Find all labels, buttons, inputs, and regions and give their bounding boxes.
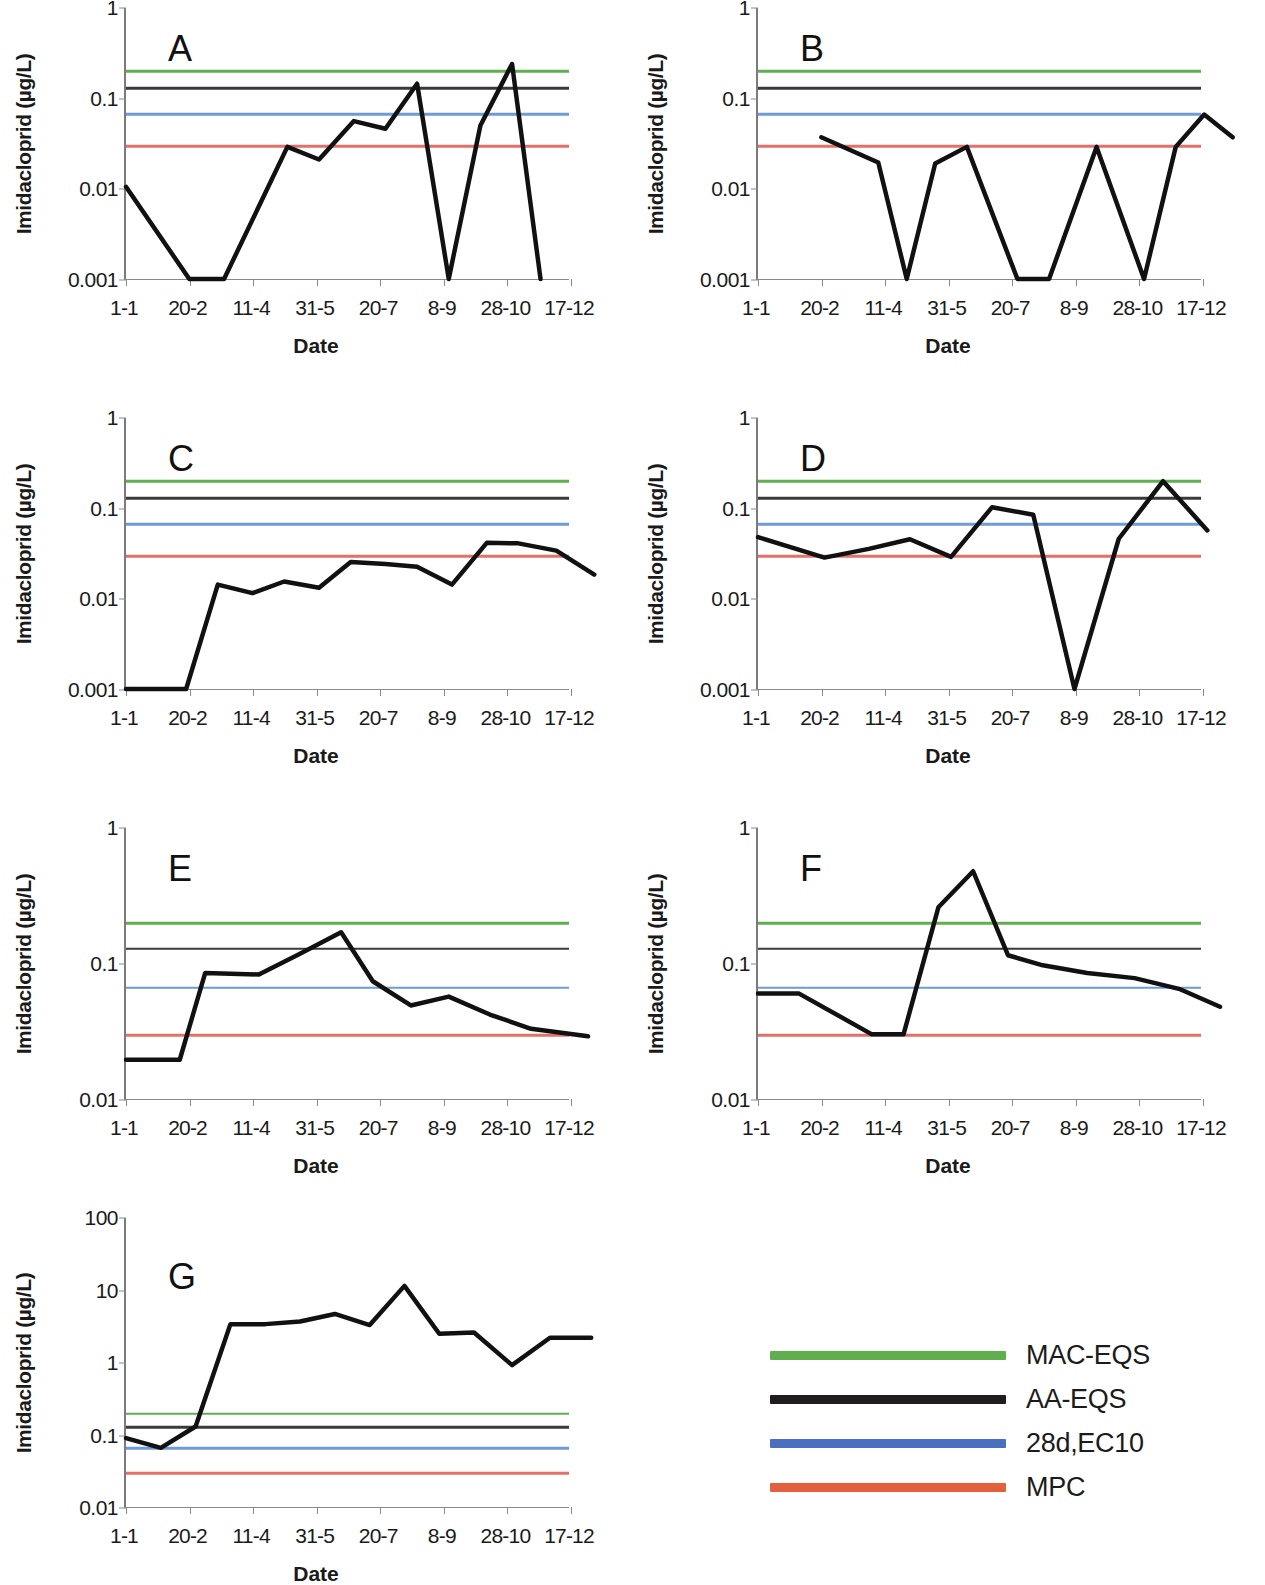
x-tick-label: 20-2 <box>168 1116 207 1140</box>
y-tick-label: 0.1 <box>90 1424 118 1448</box>
x-tick-label: 11-4 <box>233 706 270 730</box>
x-tick-label: 8-9 <box>428 706 456 730</box>
x-tick-mark <box>571 279 572 286</box>
x-tick-label: 1-1 <box>742 706 770 730</box>
x-tick-mark <box>1139 279 1140 286</box>
y-axis-ticks: 0.0010.010.11 <box>46 418 118 690</box>
y-tick-label: 1 <box>107 1351 118 1375</box>
x-axis-label: Date <box>632 1154 1264 1178</box>
x-tick-label: 20-7 <box>991 296 1030 320</box>
x-tick-label: 1-1 <box>110 706 138 730</box>
x-tick-mark <box>885 279 886 286</box>
y-axis-label: Imidacloprid (µg/L) <box>2 8 46 280</box>
legend-swatch-28d-ec10 <box>770 1439 1006 1448</box>
y-tick-mark <box>119 828 126 829</box>
y-tick-label: 1 <box>107 0 118 20</box>
x-tick-label: 20-7 <box>991 1116 1030 1140</box>
x-tick-mark <box>758 689 759 696</box>
x-tick-mark <box>253 689 254 696</box>
x-tick-label: 20-7 <box>359 1116 398 1140</box>
series-polyline <box>758 481 1207 689</box>
x-tick-mark <box>253 279 254 286</box>
x-tick-mark <box>1012 1099 1013 1106</box>
x-tick-mark <box>126 279 127 286</box>
y-tick-label: 0.1 <box>90 952 118 976</box>
x-tick-label: 28-10 <box>481 296 531 320</box>
x-tick-label: 17-12 <box>544 706 594 730</box>
x-tick-label: 31-5 <box>295 296 334 320</box>
chart-panel-b: Imidacloprid (µg/L)0.0010.010.11B1-120-2… <box>632 8 1264 390</box>
y-tick-label: 1 <box>739 406 750 430</box>
x-tick-mark <box>1012 279 1013 286</box>
y-axis-label: Imidacloprid (µg/L) <box>634 418 678 690</box>
x-tick-mark <box>1203 689 1204 696</box>
series-polyline <box>126 932 588 1059</box>
x-tick-label: 11-4 <box>233 1116 270 1140</box>
chart-panel-g: Imidacloprid (µg/L)0.010.1110100G1-120-2… <box>0 1218 632 1585</box>
legend-label-aa-eqs: AA-EQS <box>1026 1384 1126 1415</box>
y-tick-mark <box>751 964 758 965</box>
y-tick-mark <box>751 599 758 600</box>
series-polyline <box>126 1286 591 1448</box>
x-tick-label: 28-10 <box>481 1116 531 1140</box>
x-tick-mark <box>126 1099 127 1106</box>
y-axis-label: Imidacloprid (µg/L) <box>2 828 46 1100</box>
legend-swatch-mac-eqs <box>770 1351 1006 1360</box>
figure-legend: MAC-EQS AA-EQS 28d,EC10 MPC <box>770 1333 1190 1509</box>
x-tick-mark <box>758 279 759 286</box>
legend-item-mpc: MPC <box>770 1465 1190 1509</box>
y-tick-label: 1 <box>107 406 118 430</box>
x-tick-mark <box>949 279 950 286</box>
x-tick-label: 20-2 <box>800 706 839 730</box>
x-tick-mark <box>380 1099 381 1106</box>
x-axis-label: Date <box>0 1154 632 1178</box>
data-series-a <box>126 8 569 279</box>
y-tick-mark <box>751 1100 758 1101</box>
y-tick-label: 0.1 <box>722 497 750 521</box>
x-tick-mark <box>444 279 445 286</box>
chart-panel-d: Imidacloprid (µg/L)0.0010.010.11D1-120-2… <box>632 418 1264 800</box>
x-tick-label: 28-10 <box>1113 706 1163 730</box>
legend-swatch-mpc <box>770 1483 1006 1492</box>
x-tick-label: 11-4 <box>865 706 902 730</box>
y-tick-label: 0.001 <box>68 268 118 292</box>
x-tick-label: 8-9 <box>428 296 456 320</box>
x-tick-label: 1-1 <box>742 1116 770 1140</box>
x-axis-label: Date <box>632 334 1264 358</box>
data-series-b <box>758 8 1201 279</box>
x-tick-label: 11-4 <box>865 1116 902 1140</box>
chart-panel-c: Imidacloprid (µg/L)0.0010.010.11C1-120-2… <box>0 418 632 800</box>
x-tick-mark <box>1139 1099 1140 1106</box>
y-tick-mark <box>119 98 126 99</box>
x-axis-label: Date <box>632 744 1264 768</box>
y-tick-label: 0.1 <box>722 952 750 976</box>
x-tick-mark <box>1203 1099 1204 1106</box>
panel-letter-c: C <box>168 438 194 480</box>
x-tick-mark <box>253 1507 254 1514</box>
y-axis-ticks: 0.0010.010.11 <box>46 8 118 280</box>
panel-letter-d: D <box>800 438 826 480</box>
y-tick-label: 0.01 <box>711 177 750 201</box>
chart-panel-a: Imidacloprid (µg/L)0.0010.010.11A1-120-2… <box>0 8 632 390</box>
y-tick-mark <box>119 964 126 965</box>
y-tick-mark <box>119 599 126 600</box>
y-tick-label: 0.01 <box>79 1088 118 1112</box>
panel-letter-f: F <box>800 848 822 890</box>
data-series-f <box>758 828 1201 1099</box>
y-tick-label: 0.01 <box>711 587 750 611</box>
x-tick-mark <box>507 689 508 696</box>
panel-letter-b: B <box>800 28 824 70</box>
x-tick-mark <box>317 1507 318 1514</box>
x-tick-label: 31-5 <box>295 1116 334 1140</box>
x-tick-mark <box>190 1507 191 1514</box>
x-tick-mark <box>190 689 191 696</box>
y-tick-label: 0.1 <box>90 87 118 111</box>
x-tick-label: 31-5 <box>927 706 966 730</box>
x-tick-label: 8-9 <box>1060 706 1088 730</box>
x-tick-mark <box>380 279 381 286</box>
y-tick-label: 10 <box>96 1279 118 1303</box>
x-tick-label: 20-7 <box>991 706 1030 730</box>
y-axis-label: Imidacloprid (µg/L) <box>634 828 678 1100</box>
data-series-e <box>126 828 569 1099</box>
y-tick-mark <box>119 1363 126 1364</box>
